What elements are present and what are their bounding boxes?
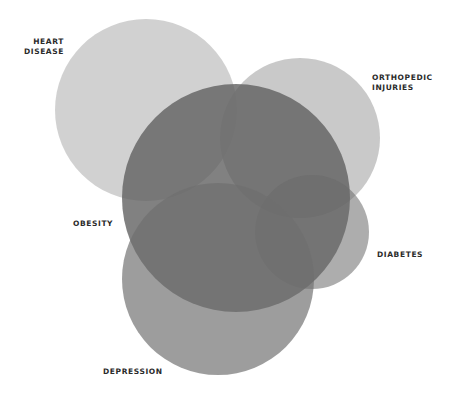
obesity-label: OBESITY bbox=[73, 219, 113, 229]
orthopedic-injuries-label: ORTHOPEDIC INJURIES bbox=[372, 73, 433, 93]
depression-label: DEPRESSION bbox=[103, 367, 163, 377]
diabetes-label: DIABETES bbox=[377, 250, 423, 260]
venn-diagram bbox=[0, 0, 455, 398]
heart-disease-label: HEART DISEASE bbox=[14, 37, 64, 57]
depression-circle bbox=[122, 183, 314, 375]
